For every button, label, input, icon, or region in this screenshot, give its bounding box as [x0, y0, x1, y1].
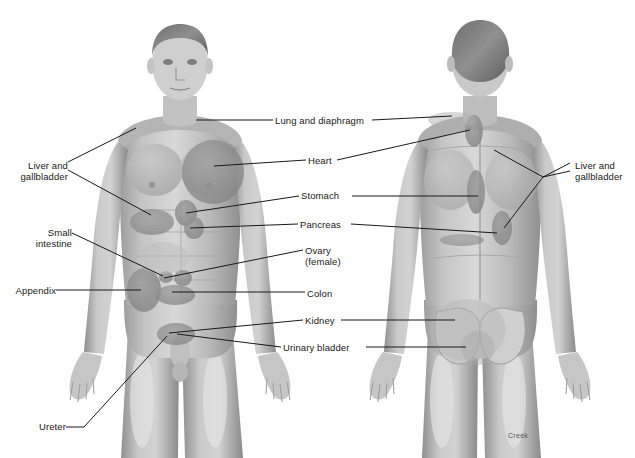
label-lung-diaphragm: Lung and diaphragm: [275, 115, 364, 126]
label-appendix: Appendix: [2, 285, 56, 296]
label-ovary: Ovary (female): [305, 245, 341, 267]
label-colon: Colon: [307, 288, 332, 299]
label-stomach: Stomach: [301, 190, 339, 201]
anatomy-diagram: Liver and gallbladder Small intestine Ap…: [0, 0, 635, 458]
label-ureter: Ureter: [26, 421, 66, 432]
label-kidney: Kidney: [305, 315, 335, 326]
posterior-figure: [370, 20, 591, 458]
label-urinary-bladder: Urinary bladder: [283, 342, 349, 353]
label-heart: Heart: [308, 155, 332, 166]
anterior-figure: [70, 24, 291, 458]
label-pancreas: Pancreas: [300, 219, 341, 230]
label-liver-gallbladder-right: Liver and gallbladder: [575, 160, 623, 182]
label-small-intestine: Small intestine: [18, 227, 72, 249]
artist-signature: Creek: [508, 432, 528, 439]
label-liver-gallbladder-left: Liver and gallbladder: [16, 160, 68, 182]
